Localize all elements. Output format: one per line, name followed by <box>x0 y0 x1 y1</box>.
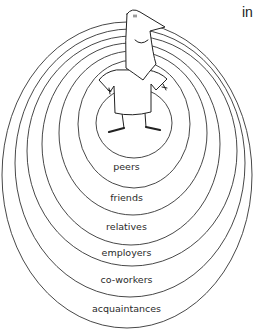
head <box>126 10 165 80</box>
ring-label-peers: peers <box>0 161 253 173</box>
right-foot <box>146 127 160 130</box>
person-figure <box>99 10 167 132</box>
social-circles-diagram: in peers friends relatives employers co-… <box>0 0 253 330</box>
ring-label-friends: friends <box>0 192 253 204</box>
ring-label-co-workers: co-workers <box>0 274 253 286</box>
shirt <box>99 70 167 115</box>
ring-label-acquaintances: acquaintances <box>0 303 253 315</box>
ring-label-employers: employers <box>0 247 253 259</box>
left-leg <box>122 113 124 128</box>
ring-label-relatives: relatives <box>0 221 253 233</box>
left-foot <box>109 128 124 132</box>
right-leg <box>145 113 146 127</box>
clipped-text: in <box>242 4 253 20</box>
right-hand <box>162 84 167 90</box>
